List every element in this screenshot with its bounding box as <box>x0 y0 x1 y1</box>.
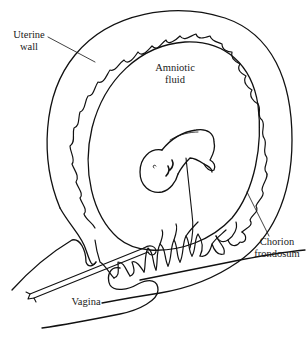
label-amniotic-fluid: Amniotic fluid <box>152 62 198 86</box>
label-amniotic-fluid-line1: Amniotic <box>152 62 198 74</box>
label-chorion-frondosum-line1: Chorion <box>252 236 302 248</box>
label-chorion-frondosum: Chorion frondosum <box>252 236 302 260</box>
label-uterine-wall: Uterine wall <box>10 29 48 53</box>
embryo-head <box>140 150 178 193</box>
embryo <box>140 130 215 193</box>
instrument <box>26 246 156 302</box>
label-uterine-wall-line1: Uterine <box>10 29 48 41</box>
embryo-face <box>166 160 173 176</box>
label-amniotic-fluid-line2: fluid <box>152 74 198 86</box>
label-vagina: Vagina <box>68 296 104 308</box>
uterus-diagram: Uterine wall Amniotic fluid Chorion fron… <box>0 0 307 338</box>
cervix-outer-left <box>12 240 96 290</box>
label-vagina-line1: Vagina <box>68 296 104 308</box>
label-chorion-frondosum-line2: frondosum <box>252 248 302 260</box>
embryo-eye <box>153 165 156 168</box>
chorion-frondosum-villi <box>95 222 246 278</box>
cervix-left-lip <box>60 208 96 264</box>
embryo-body <box>162 130 215 174</box>
label-uterine-wall-line2: wall <box>10 41 48 53</box>
